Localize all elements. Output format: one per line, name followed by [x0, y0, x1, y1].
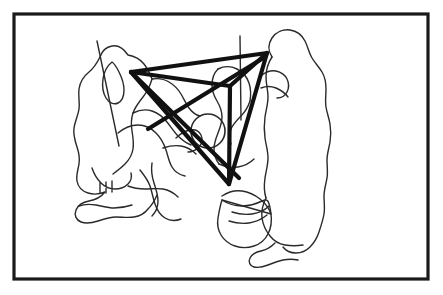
artwork-canvas: Untitled line drawing Three robed figure…	[0, 0, 443, 295]
paper-background	[0, 0, 443, 295]
line-drawing-svg	[0, 0, 443, 295]
